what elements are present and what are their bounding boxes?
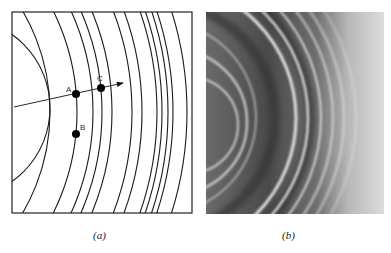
- caption-a: (a): [93, 229, 106, 241]
- panel-a-wavefront-diagram: A B C: [0, 0, 200, 220]
- ripple-photograph: [200, 0, 391, 220]
- panel-b-ripple-photo: [200, 0, 391, 220]
- point-c-dot: [97, 84, 105, 92]
- wavefront-drawing: A B C: [0, 0, 200, 220]
- caption-b: (b): [282, 229, 295, 241]
- point-a-dot: [72, 90, 80, 98]
- point-a-label: A: [66, 85, 72, 94]
- point-b-label: B: [80, 123, 85, 132]
- point-b-dot: [72, 130, 80, 138]
- point-c-label: C: [97, 74, 103, 83]
